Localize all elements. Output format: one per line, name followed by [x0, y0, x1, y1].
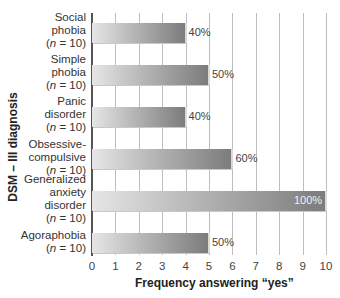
gridline [186, 13, 187, 255]
category-label: Socialphobia(n = 10) [0, 11, 86, 50]
x-tick-label: 7 [246, 260, 266, 272]
x-tick-label: 4 [176, 260, 196, 272]
bar [92, 65, 208, 85]
data-label: 100% [294, 194, 322, 206]
x-tick-label: 9 [293, 260, 313, 272]
x-axis-label: Frequency answering “yes” [135, 276, 294, 290]
x-tick-label: 1 [105, 260, 125, 272]
y-axis-line [91, 13, 93, 256]
x-tick-label: 3 [152, 260, 172, 272]
x-tick-label: 6 [222, 260, 242, 272]
data-label: 50% [212, 68, 234, 80]
data-label: 40% [189, 110, 211, 122]
bar [92, 23, 185, 43]
bar [92, 107, 185, 127]
data-label: 60% [235, 152, 257, 164]
gridline [139, 13, 140, 255]
gridline [326, 13, 327, 255]
gridline [232, 13, 233, 255]
y-axis-label: DSM – III diagnosis [6, 82, 20, 212]
bar [92, 191, 325, 211]
gridline [303, 13, 304, 255]
x-tick-label: 0 [82, 260, 102, 272]
x-tick-label: 8 [269, 260, 289, 272]
data-label: 40% [189, 26, 211, 38]
gridline [115, 13, 116, 255]
x-tick-label: 2 [129, 260, 149, 272]
bar [92, 149, 231, 169]
gridline [279, 13, 280, 255]
bar [92, 233, 208, 253]
x-tick-label: 10 [316, 260, 336, 272]
x-tick-label: 5 [199, 260, 219, 272]
gridline [209, 13, 210, 255]
gridline [256, 13, 257, 255]
data-label: 50% [212, 236, 234, 248]
category-label: Agoraphobia(n = 10) [0, 229, 86, 255]
gridline [162, 13, 163, 255]
